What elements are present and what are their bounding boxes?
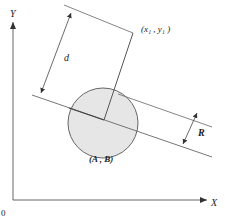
- geometry-diagram: Y X 0 (x₁ , y₁ ) (A , B) d R: [0, 0, 225, 221]
- top-parallel-line: [64, 5, 133, 33]
- center-label: (A , B): [89, 154, 113, 164]
- radius-label: R: [197, 127, 205, 138]
- x-axis-label: X: [210, 197, 218, 208]
- origin-label: 0: [1, 208, 6, 218]
- point-far-label: (x₁ , y₁ ): [141, 24, 170, 34]
- distance-label: d: [64, 52, 70, 63]
- circle: [68, 88, 138, 158]
- y-axis-label: Y: [10, 8, 17, 19]
